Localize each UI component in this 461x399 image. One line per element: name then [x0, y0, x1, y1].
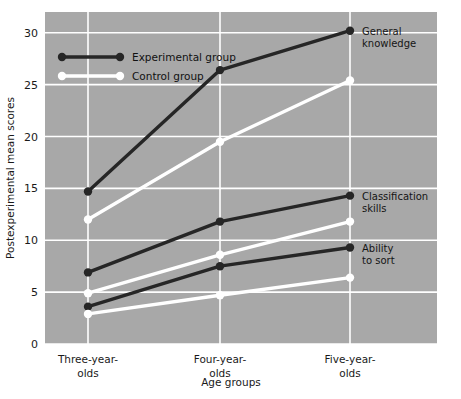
series-annotation-line: Classification	[362, 191, 428, 202]
legend-marker-icon	[58, 53, 66, 61]
data-point	[84, 310, 92, 318]
y-tick-label: 30	[24, 27, 38, 40]
data-point	[346, 217, 354, 225]
data-point	[216, 66, 224, 74]
data-point	[216, 137, 224, 145]
chart-figure: 051015202530 GeneralknowledgeClassificat…	[0, 0, 461, 399]
legend-marker-icon	[116, 53, 124, 61]
y-tick-label: 10	[24, 234, 38, 247]
data-point	[216, 291, 224, 299]
y-tick-label: 5	[31, 286, 38, 299]
y-tick-label: 0	[31, 338, 38, 351]
y-tick-label: 20	[24, 131, 38, 144]
data-point	[216, 251, 224, 259]
data-point	[84, 268, 92, 276]
data-point	[216, 217, 224, 225]
legend-label: Control group	[132, 70, 204, 82]
series-annotation-line: General	[362, 26, 401, 37]
series-annotation-line: Ability	[362, 243, 393, 254]
legend-marker-icon	[58, 72, 66, 80]
x-category-label: Three-year-	[57, 353, 118, 365]
y-tick-label: 15	[24, 182, 38, 195]
x-category-label: Five-year-	[324, 353, 375, 365]
series-annotation-line: skills	[362, 203, 387, 214]
x-category-label: Four-year-	[194, 353, 247, 365]
series-annotation: Abilityto sort	[362, 243, 395, 266]
x-category-label: olds	[77, 367, 98, 379]
y-axis-title: Postexperimental mean scores	[4, 97, 16, 259]
data-point	[84, 215, 92, 223]
y-tick-label: 25	[24, 79, 38, 92]
y-axis-tick-labels: 051015202530	[24, 27, 38, 351]
data-point	[346, 243, 354, 251]
data-point	[84, 302, 92, 310]
legend-label: Experimental group	[132, 51, 236, 63]
data-point	[346, 273, 354, 281]
data-point	[84, 289, 92, 297]
line-chart-svg: 051015202530 GeneralknowledgeClassificat…	[0, 0, 461, 399]
data-point	[84, 187, 92, 195]
data-point	[346, 191, 354, 199]
data-point	[216, 262, 224, 270]
series-annotation-line: to sort	[362, 255, 395, 266]
data-point	[346, 26, 354, 34]
series-annotation-line: knowledge	[362, 38, 416, 49]
x-category-label: olds	[339, 367, 360, 379]
data-point	[346, 76, 354, 84]
x-axis-title: Age groups	[201, 376, 261, 388]
legend-marker-icon	[116, 72, 124, 80]
